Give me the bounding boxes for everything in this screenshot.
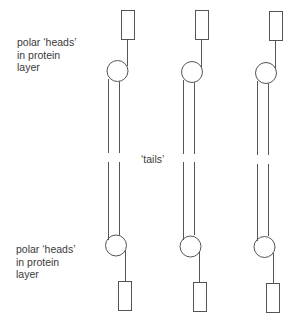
protein-block-top (196, 11, 209, 40)
bottom-heads-label: polar ‘heads’ in protein layer (16, 243, 76, 281)
top-heads-label-line-1: polar ‘heads’ (17, 36, 77, 49)
top-heads-label: polar ‘heads’ in protein layer (17, 36, 77, 74)
protein-block-top (270, 12, 283, 41)
top-heads-label-line-3: layer (17, 61, 77, 74)
top-heads-label-line-2: in protein (17, 49, 77, 62)
protein-block-bottom (267, 284, 280, 313)
tails-label-text: ‘tails’ (141, 153, 164, 166)
tails-label: ‘tails’ (141, 153, 164, 166)
molecule-3 (254, 12, 283, 313)
polar-head-bottom (180, 236, 201, 257)
bottom-heads-label-line-3: layer (16, 268, 76, 281)
polar-head-top (256, 63, 277, 84)
polar-head-bottom (106, 235, 127, 256)
molecule-2 (180, 11, 209, 312)
bottom-heads-label-line-2: in protein (16, 256, 76, 269)
protein-block-top (122, 11, 135, 40)
protein-block-bottom (194, 283, 207, 312)
protein-block-bottom (119, 282, 132, 311)
polar-head-top (182, 62, 203, 83)
polar-head-bottom (254, 237, 275, 258)
molecule-1 (106, 11, 135, 311)
bottom-heads-label-line-1: polar ‘heads’ (16, 243, 76, 256)
polar-head-top (107, 61, 128, 82)
